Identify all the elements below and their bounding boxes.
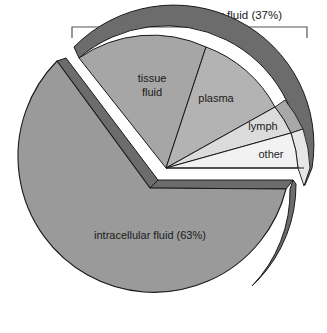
other-label: other xyxy=(258,148,283,160)
plasma-label: plasma xyxy=(198,92,234,104)
tissue-fluid-label-1: tissue xyxy=(138,72,167,84)
lymph-label: lymph xyxy=(248,120,277,132)
tissue-fluid-label-2: fluid xyxy=(142,86,162,98)
intracellular-label: intracellular fluid (63%) xyxy=(94,229,206,241)
fluid-pie-chart: extracellular fluid (37%) tissue fluid p… xyxy=(0,0,327,333)
